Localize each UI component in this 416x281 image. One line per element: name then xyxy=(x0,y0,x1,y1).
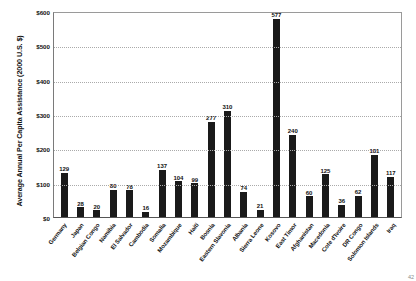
bar-value-label: 577 xyxy=(271,12,281,18)
x-axis-tick-label: Iraq xyxy=(385,222,396,234)
bar-item: 60 xyxy=(301,13,317,217)
gridline xyxy=(54,47,401,48)
bar-item: 20 xyxy=(89,13,105,217)
bar-value-label: 129 xyxy=(59,166,69,172)
bar-value-label: 28 xyxy=(77,201,84,207)
y-axis-tick-label: $300 xyxy=(22,112,50,119)
bar-item: 137 xyxy=(154,13,170,217)
bar-item: 104 xyxy=(170,13,186,217)
bar-item: 74 xyxy=(236,13,252,217)
bar-item: 28 xyxy=(72,13,88,217)
bar-rect: 36 xyxy=(338,205,345,217)
bar-value-label: 104 xyxy=(173,175,183,181)
bar-rect: 60 xyxy=(306,196,313,217)
bar-item: 181 xyxy=(366,13,382,217)
gridline xyxy=(54,150,401,151)
bar-value-label: 117 xyxy=(386,170,396,176)
bar-item: 129 xyxy=(56,13,72,217)
bar-item: 16 xyxy=(138,13,154,217)
bar-rect: 21 xyxy=(257,210,264,217)
bar-item: 62 xyxy=(350,13,366,217)
y-axis-tick-label: $400 xyxy=(22,77,50,84)
bar-value-label: 181 xyxy=(369,148,379,154)
bar-rect: 181 xyxy=(371,155,378,217)
page-number: 42 xyxy=(408,274,414,280)
bar-rect: 74 xyxy=(240,192,247,217)
bar-rect: 240 xyxy=(289,135,296,217)
x-axis-tick-label: Japan xyxy=(69,222,84,239)
bar-item: 99 xyxy=(187,13,203,217)
bar-value-label: 125 xyxy=(320,168,330,174)
x-axis-tick-label: Germany xyxy=(48,222,68,246)
bar-item: 80 xyxy=(105,13,121,217)
bar-value-label: 62 xyxy=(355,189,362,195)
bar-value-label: 240 xyxy=(288,128,298,134)
x-axis-tick-slot: Afghanistan xyxy=(301,220,317,278)
bar-chart: Average Annual Per Capita Assistance (20… xyxy=(0,0,416,281)
bar-rect: 99 xyxy=(191,183,198,217)
x-axis-tick-label: Haiti xyxy=(187,222,199,236)
bar-value-label: 21 xyxy=(257,203,264,209)
bar-rect: 62 xyxy=(355,196,362,217)
gridline xyxy=(54,82,401,83)
bar-rect: 16 xyxy=(142,212,149,217)
bar-rect: 117 xyxy=(387,177,394,217)
bar-value-label: 20 xyxy=(93,204,100,210)
bar-rect: 129 xyxy=(61,173,68,217)
bar-rect: 137 xyxy=(159,170,166,217)
bar-rect: 310 xyxy=(224,111,231,217)
x-axis-tick-slot: Sierra Leone xyxy=(252,220,268,278)
bar-rect: 78 xyxy=(126,190,133,217)
bar-value-label: 137 xyxy=(157,163,167,169)
bar-item: 78 xyxy=(121,13,137,217)
x-axis-tick-slot: El Salvador xyxy=(121,220,137,278)
y-axis-tick-label: $600 xyxy=(22,9,50,16)
y-axis-tick-label: $200 xyxy=(22,146,50,153)
y-axis-tick-label: $500 xyxy=(22,43,50,50)
x-axis-tick-slot: Eastern Slavonia xyxy=(219,220,235,278)
x-axis-tick-slot: Belgian Congo xyxy=(88,220,104,278)
bar-item: 36 xyxy=(334,13,350,217)
x-axis-tick-slot: Kosovo xyxy=(268,220,284,278)
bar-rect: 104 xyxy=(175,181,182,217)
bar-item: 577 xyxy=(268,13,284,217)
gridline xyxy=(54,185,401,186)
bar-value-label: 310 xyxy=(222,104,232,110)
bar-value-label: 74 xyxy=(240,185,247,191)
bar-rect: 28 xyxy=(77,207,84,217)
bar-item: 310 xyxy=(219,13,235,217)
bar-item: 277 xyxy=(203,13,219,217)
plot-area: 1292820807816137104992773107421577240601… xyxy=(53,12,402,218)
bar-item: 21 xyxy=(252,13,268,217)
y-axis-tick-labels: $0$100$200$300$400$500$600 xyxy=(22,12,50,218)
x-axis-tick-slot: Cambodia xyxy=(137,220,153,278)
x-axis-tick-slot: Germany xyxy=(55,220,71,278)
x-axis-tick-labels: GermanyJapanBelgian CongoNamibiaEl Salva… xyxy=(53,220,402,278)
bar-item: 125 xyxy=(317,13,333,217)
bar-value-label: 99 xyxy=(191,177,198,183)
y-axis-tick-label: $0 xyxy=(22,215,50,222)
bar-series: 1292820807816137104992773107421577240601… xyxy=(54,13,401,217)
bar-value-label: 36 xyxy=(338,198,345,204)
bar-rect: 20 xyxy=(93,210,100,217)
x-axis-tick-slot: Solomon Islands xyxy=(367,220,383,278)
gridline xyxy=(54,116,401,117)
bar-value-label: 60 xyxy=(306,190,313,196)
x-axis-tick-slot: Mozambique xyxy=(170,220,186,278)
bar-value-label: 16 xyxy=(142,205,149,211)
bar-rect: 277 xyxy=(208,122,215,217)
bar-rect: 125 xyxy=(322,174,329,217)
x-axis-tick-slot: Haiti xyxy=(186,220,202,278)
bar-item: 117 xyxy=(383,13,399,217)
bar-item: 240 xyxy=(285,13,301,217)
bar-rect: 577 xyxy=(273,19,280,217)
x-axis-tick-slot: Iraq xyxy=(383,220,399,278)
y-axis-tick-label: $100 xyxy=(22,180,50,187)
x-axis-tick-slot: Cote d'Ivoire xyxy=(334,220,350,278)
bar-rect: 80 xyxy=(110,190,117,217)
